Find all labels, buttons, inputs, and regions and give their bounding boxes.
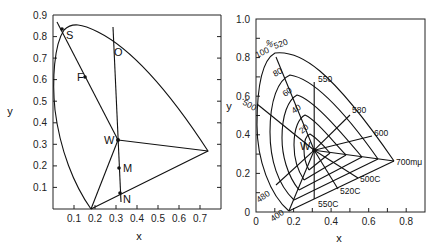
label-N: N	[123, 193, 131, 205]
right-ytick-label: 0.8	[236, 52, 250, 63]
contour-label-40: 40	[289, 102, 303, 116]
wl-label-400: 400	[268, 207, 286, 223]
label-S: S	[66, 29, 73, 41]
left-ytick-label: 0.3	[33, 139, 47, 150]
left-xtick-label: 0.7	[193, 213, 207, 224]
comp-label-550C: 550C	[318, 199, 338, 209]
wl-label-480: 480	[254, 188, 272, 204]
right-xtick-label: 0.6	[362, 216, 376, 227]
left-ytick-label: 0.5	[33, 96, 47, 107]
line-W-red	[118, 140, 208, 151]
cie-chromaticity-figure: 0.1 0.2 0.3 0.4 0.5 0.6 0.7 0.8 0.9 0.1 …	[0, 0, 433, 249]
label-O: O	[114, 46, 123, 58]
left-x-axis-label: x	[136, 230, 142, 242]
right-xtick-label: 0.2	[287, 216, 301, 227]
right-ytick-label: 0.2	[236, 168, 250, 179]
right-xtick-label: 0	[253, 216, 259, 227]
point-S	[60, 27, 64, 31]
left-ytick-label: 0.9	[33, 10, 47, 21]
left-ytick-label: 0.8	[33, 31, 47, 42]
wl-label-600: 600	[374, 128, 388, 138]
left-y-ticks	[53, 37, 221, 188]
label-M: M	[123, 162, 132, 174]
right-ytick-label: 0.4	[236, 129, 250, 140]
contour-label-80: 80	[271, 65, 284, 79]
left-xtick-label: 0.3	[109, 213, 123, 224]
left-y-axis-label: y	[7, 105, 13, 117]
wl-label-580: 580	[352, 105, 366, 115]
comp-label-500C: 500C	[360, 174, 380, 184]
left-y-tick-labels: 0.1 0.2 0.3 0.4 0.5 0.6 0.7 0.8 0.9	[33, 10, 47, 193]
right-xtick-label: 0.4	[324, 216, 338, 227]
white-point	[312, 148, 316, 152]
right-xtick-label: 0.8	[399, 216, 413, 227]
line-W-violet	[91, 140, 118, 209]
left-xtick-label: 0.6	[172, 213, 186, 224]
right-ytick-label: 1.0	[236, 14, 250, 25]
left-x-tick-labels: 0.1 0.2 0.3 0.4 0.5 0.6 0.7	[67, 213, 207, 224]
right-x-axis-label: x	[336, 232, 342, 244]
wl-line-580	[314, 115, 350, 150]
wl-label-520: 520	[272, 37, 289, 51]
right-chart: 0 0.2 0.4 0.6 0.8 1.0 0 0.2 0.4 0.6 0.8 …	[226, 14, 425, 244]
label-W: W	[104, 134, 115, 146]
comp-label-520C: 520C	[340, 186, 360, 196]
spectrum-locus	[54, 25, 208, 209]
wl-label-700: 700mμ	[396, 157, 422, 167]
label-W-right: W	[300, 140, 311, 152]
left-ytick-label: 0.7	[33, 53, 47, 64]
point-W	[116, 138, 120, 142]
right-y-tick-labels: 0 0.2 0.4 0.6 0.8 1.0	[236, 14, 250, 218]
label-F: F	[77, 71, 84, 83]
point-M	[117, 166, 121, 170]
right-y-axis-label: y	[226, 100, 232, 112]
right-ytick-label: 0	[244, 207, 250, 218]
left-xtick-label: 0.4	[130, 213, 144, 224]
left-ytick-label: 0.2	[33, 160, 47, 171]
point-N	[118, 191, 122, 195]
left-ytick-label: 0.1	[33, 182, 47, 193]
comp-line-500C	[314, 150, 358, 178]
left-xtick-label: 0.5	[151, 213, 165, 224]
left-ytick-label: 0.4	[33, 117, 47, 128]
left-xtick-label: 0.1	[67, 213, 81, 224]
contour-label-20: 20	[297, 122, 311, 136]
wl-label-550: 550	[318, 74, 332, 84]
left-xtick-label: 0.2	[88, 213, 102, 224]
wl-line-600	[314, 136, 372, 150]
point-F	[83, 75, 87, 79]
left-ytick-label: 0.6	[33, 74, 47, 85]
left-chart: 0.1 0.2 0.3 0.4 0.5 0.6 0.7 0.8 0.9 0.1 …	[7, 10, 221, 242]
